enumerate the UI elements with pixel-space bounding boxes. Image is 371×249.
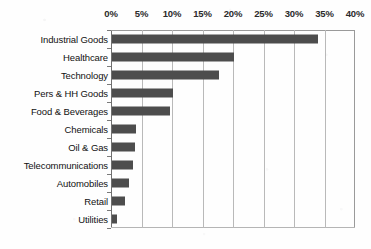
x-axis-tick-label: 10% [163,8,181,19]
category-label: Food & Beverages [31,106,108,117]
x-axis-tick-label: 15% [193,8,211,19]
y-axis-tickmark [107,84,111,85]
y-axis-tickmark [107,228,111,229]
bar-chart: 0%5%10%15%20%25%30%35%40% Industrial Goo… [0,0,371,249]
category-label: Industrial Goods [40,34,108,45]
gridline [294,30,295,228]
y-axis-tickmark [107,66,111,67]
x-axis-tick-label: 35% [315,8,333,19]
y-axis-tickmark [107,138,111,139]
bar [112,179,129,188]
bar [112,89,173,98]
category-label: Chemicals [65,124,108,135]
gridline [325,30,326,228]
bar [112,107,170,116]
category-label: Healthcare [63,52,108,63]
x-axis-tick-label-row: 0%5%10%15%20%25%30%35%40% [0,8,371,24]
y-axis-tickmark [107,210,111,211]
y-axis-tickmark [107,48,111,49]
category-label: Oil & Gas [68,142,108,153]
category-label: Utilities [78,214,108,225]
bar [112,53,234,62]
bar [112,143,135,152]
bar [112,215,117,224]
x-axis-tick-label: 30% [285,8,303,19]
x-axis-tick-label: 40% [346,8,364,19]
x-axis-tick-label: 20% [224,8,242,19]
category-label: Retail [84,196,108,207]
category-label: Telecommunications [24,160,108,171]
bar [112,35,318,44]
gridline [264,30,265,228]
y-axis-tickmark [107,192,111,193]
bar [112,71,219,80]
x-axis-tick-label: 0% [104,8,117,19]
bar [112,197,125,206]
x-axis-tick-label: 25% [254,8,272,19]
bar [112,161,133,170]
y-axis-tickmark [107,120,111,121]
x-axis-tick-label: 5% [135,8,148,19]
y-axis-tickmark [107,156,111,157]
bar [112,125,136,134]
category-label: Technology [61,70,108,81]
y-axis-tickmark [107,102,111,103]
plot-area [111,30,355,228]
y-axis-tickmark [107,30,111,31]
plot-right-border [354,30,355,228]
category-label: Pers & HH Goods [34,88,108,99]
category-label: Automobiles [57,178,108,189]
y-axis-tickmark [107,174,111,175]
